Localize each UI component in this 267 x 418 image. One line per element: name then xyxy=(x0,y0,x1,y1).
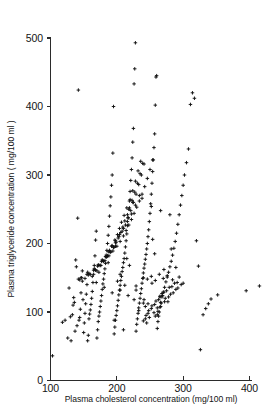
data-point xyxy=(97,314,101,318)
data-point xyxy=(122,261,126,265)
data-point xyxy=(151,238,155,242)
data-point xyxy=(75,265,79,269)
data-point xyxy=(144,253,148,256)
data-point xyxy=(132,212,136,216)
data-point xyxy=(106,234,110,238)
data-point xyxy=(63,318,66,322)
data-point xyxy=(120,270,124,274)
y-tick-label: 200 xyxy=(26,237,43,249)
data-point xyxy=(147,228,151,232)
data-point xyxy=(124,229,128,233)
data-point xyxy=(79,308,83,312)
data-point xyxy=(130,168,134,172)
data-point xyxy=(175,231,179,235)
data-point xyxy=(73,329,77,333)
data-point xyxy=(149,202,153,206)
data-point xyxy=(148,212,152,216)
data-point xyxy=(109,195,113,199)
data-point xyxy=(83,277,87,281)
data-point xyxy=(72,296,76,300)
data-point xyxy=(179,203,183,207)
data-point xyxy=(126,216,130,220)
data-point xyxy=(162,277,166,281)
data-point xyxy=(89,303,93,307)
data-point xyxy=(102,272,106,276)
data-point xyxy=(136,169,140,173)
data-point xyxy=(142,276,146,280)
data-point xyxy=(258,284,262,288)
data-point xyxy=(163,286,167,290)
data-point xyxy=(153,252,157,256)
data-point xyxy=(118,240,122,244)
data-point xyxy=(99,305,103,309)
data-point xyxy=(107,225,111,229)
data-point xyxy=(167,295,171,299)
data-point xyxy=(156,320,160,324)
data-point xyxy=(159,305,163,309)
data-point xyxy=(166,300,170,304)
data-point xyxy=(139,292,143,296)
data-point xyxy=(69,315,73,319)
data-point xyxy=(169,260,173,264)
data-point xyxy=(111,151,115,155)
data-point xyxy=(85,292,89,296)
data-point xyxy=(134,329,138,333)
data-point xyxy=(126,294,130,298)
data-point xyxy=(176,223,180,227)
data-point xyxy=(177,275,181,279)
data-point xyxy=(85,283,89,287)
data-point xyxy=(81,269,85,273)
data-point xyxy=(130,218,134,222)
data-point xyxy=(172,247,176,251)
data-point xyxy=(209,297,213,301)
data-point xyxy=(163,300,167,304)
data-point xyxy=(152,146,156,150)
data-point xyxy=(146,235,150,239)
data-point xyxy=(119,279,123,283)
data-point xyxy=(171,253,175,256)
data-point xyxy=(147,309,151,313)
y-tick-label: 100 xyxy=(26,306,43,318)
data-point xyxy=(110,184,114,188)
data-point xyxy=(146,312,150,316)
data-point xyxy=(113,325,117,329)
data-point xyxy=(199,348,203,352)
data-point xyxy=(108,204,112,208)
data-point xyxy=(93,254,97,257)
data-point xyxy=(124,239,128,243)
data-point xyxy=(88,312,92,316)
data-point xyxy=(189,103,193,107)
data-point xyxy=(170,285,174,289)
data-point xyxy=(154,103,158,107)
data-point xyxy=(116,279,120,283)
data-point xyxy=(197,264,201,268)
data-point xyxy=(123,219,127,223)
data-point xyxy=(154,279,158,283)
data-point xyxy=(87,317,91,321)
y-axis-ticks xyxy=(47,38,51,381)
data-point xyxy=(152,311,156,315)
y-axis-title: Plasma triglyceride concentration ( mg/1… xyxy=(6,120,16,297)
data-point xyxy=(173,240,177,244)
data-point xyxy=(128,190,132,194)
data-point xyxy=(128,264,131,268)
data-point xyxy=(126,213,130,217)
data-point xyxy=(150,281,154,285)
data-point xyxy=(156,306,160,310)
data-point xyxy=(150,192,154,196)
data-point xyxy=(132,298,136,302)
data-point xyxy=(144,314,148,318)
data-point xyxy=(116,299,120,303)
data-point xyxy=(150,181,154,185)
x-axis-title: Plasma cholesterol concentration (mg/100… xyxy=(65,394,238,404)
data-point xyxy=(134,288,138,292)
data-point xyxy=(139,160,143,164)
data-point xyxy=(159,301,163,305)
data-point xyxy=(138,301,142,305)
data-point xyxy=(187,147,191,151)
data-point xyxy=(195,239,199,243)
data-point xyxy=(193,97,197,101)
data-point xyxy=(121,266,125,270)
plot-canvas: 0100200300400500 100200300400 Plasma cho… xyxy=(0,0,267,418)
data-point xyxy=(100,288,104,292)
